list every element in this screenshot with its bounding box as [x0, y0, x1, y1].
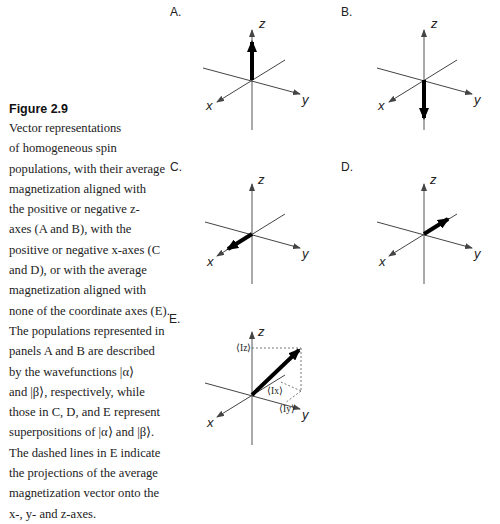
- z-axis-label: z: [430, 16, 438, 31]
- z-axis-label: z: [429, 172, 437, 187]
- y-axis-label: y: [473, 246, 482, 261]
- x-axis-label: x: [206, 254, 214, 269]
- panel-a: A. z y x: [170, 5, 310, 130]
- y-axis-label: y: [301, 407, 310, 422]
- panel-c: C. z y x: [170, 160, 310, 284]
- panel-d: D. z y x: [341, 160, 482, 284]
- panel-e: E. z y x ⟨Iz⟩ ⟨Ix⟩ ⟨Iy⟩: [169, 312, 310, 445]
- x-axis-label: x: [205, 98, 213, 113]
- panel-label-a: A.: [170, 5, 181, 19]
- x-axis-label: x: [206, 415, 214, 430]
- caption-line: x-, y- and z-axes.: [9, 504, 169, 524]
- panel-label-e: E.: [169, 312, 180, 326]
- caption-line: the projections of the average: [9, 463, 169, 483]
- panel-label-c: C.: [170, 160, 182, 174]
- iz-projection-label: ⟨Iz⟩: [236, 343, 251, 353]
- panel-b: B. z y x: [341, 5, 482, 130]
- x-axis-label: x: [377, 98, 385, 113]
- x-axis: [217, 375, 285, 417]
- panel-label-d: D.: [341, 160, 353, 174]
- z-axis-label: z: [257, 172, 265, 187]
- y-axis-label: y: [301, 92, 310, 107]
- magnetization-vector: [228, 234, 252, 249]
- y-axis-label: y: [473, 92, 482, 107]
- y-axis-label: y: [301, 246, 310, 261]
- x-axis-label: x: [378, 254, 386, 269]
- z-axis-label: z: [258, 16, 266, 31]
- iy-projection-label: ⟨Iy⟩: [279, 404, 295, 414]
- ix-projection-label: ⟨Ix⟩: [267, 386, 283, 396]
- magnetization-vector: [424, 219, 448, 234]
- panel-label-b: B.: [341, 5, 352, 19]
- z-axis-label: z: [257, 324, 265, 339]
- caption-line: magnetization vector onto the: [9, 483, 169, 503]
